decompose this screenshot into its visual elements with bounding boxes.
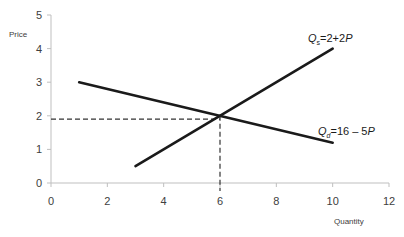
x-tick-label: 2 — [104, 195, 110, 207]
supply-label: Qs=2+2P — [308, 32, 353, 46]
x-tick-label: 10 — [327, 195, 339, 207]
x-axis-title: Quantity — [334, 217, 364, 226]
y-axis-title: Price — [9, 30, 28, 39]
demand-label: Qd=16 – 5P — [318, 125, 375, 139]
y-tick-label: 0 — [36, 177, 42, 189]
equilibrium-guides — [51, 116, 220, 191]
x-tick-label: 12 — [383, 195, 395, 207]
y-tick-label: 4 — [36, 43, 42, 55]
demand-curve — [79, 82, 333, 142]
x-tick-label: 8 — [273, 195, 279, 207]
y-axis: 012345 — [36, 9, 51, 189]
x-tick-label: 4 — [161, 195, 167, 207]
x-tick-label: 0 — [48, 195, 54, 207]
y-tick-label: 2 — [36, 110, 42, 122]
y-tick-label: 3 — [36, 76, 42, 88]
y-tick-label: 1 — [36, 143, 42, 155]
x-axis: 024681012 — [48, 183, 395, 207]
y-tick-label: 5 — [36, 9, 42, 21]
supply-demand-chart: 012345 024681012 Price Quantity Qs=2+2P … — [0, 0, 404, 237]
supply-curve — [136, 49, 333, 167]
x-tick-label: 6 — [217, 195, 223, 207]
